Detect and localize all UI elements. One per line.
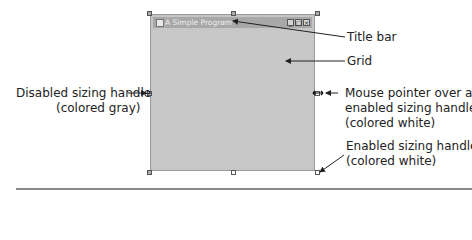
- callout-mouse-pointer-line1: Mouse pointer over an: [345, 86, 472, 101]
- callout-disabled-handle-line2: (colored gray): [56, 101, 140, 116]
- callout-enabled-handle-line2: (colored white): [346, 154, 436, 169]
- callout-enabled-handle-line1: Enabled sizing handle: [346, 139, 472, 154]
- callout-mouse-pointer-line2: enabled sizing handle: [345, 101, 472, 116]
- callout-title-bar: Title bar: [347, 30, 396, 45]
- resize-cursor-icon: [313, 91, 323, 95]
- callout-mouse-pointer-line3: (colored white): [345, 116, 435, 131]
- bottom-rule: [16, 188, 472, 190]
- callout-grid: Grid: [347, 54, 372, 69]
- callout-disabled-handle-line1: Disabled sizing handle: [16, 86, 151, 101]
